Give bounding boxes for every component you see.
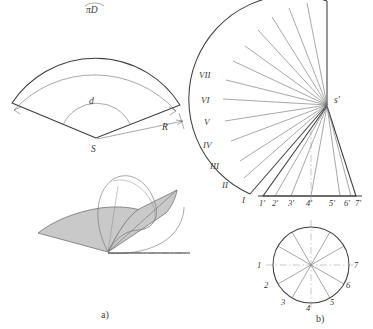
arrow-left-outer — [14, 107, 21, 114]
triangle-generatrix — [291, 106, 327, 196]
drawing-canvas: πD d S R a) — [0, 0, 373, 329]
sector-outline — [12, 58, 180, 138]
label-circle-2: 2 — [264, 280, 269, 290]
panel-a-sector-development: πD d S R — [12, 3, 184, 154]
label-circle-6: 6 — [346, 280, 351, 290]
fan-generatrix — [245, 46, 327, 105]
panel-b-caption: b) — [316, 313, 324, 325]
radius-tick — [179, 113, 184, 129]
fan-radius-bottom — [250, 105, 327, 194]
panel-b-front-view-triangle: 1' 2' 3' 4' 5' 6' 7' — [258, 106, 362, 208]
circle-radius — [292, 265, 311, 298]
label-circle-1: 1 — [257, 260, 261, 270]
label-apex-s-prime: s' — [334, 95, 341, 105]
panel-a-cone-unrolling: a) — [38, 176, 190, 321]
label-baseline-4p: 4' — [306, 198, 312, 208]
circle-radius — [292, 232, 311, 265]
label-circle-4: 4 — [306, 303, 311, 313]
label-apex-S: S — [91, 144, 96, 154]
label-baseline-7p: 7' — [355, 198, 361, 208]
panel-b-fan-development: VII VI V IV III II I s' — [189, 0, 341, 205]
fan-generatrix-group — [223, 3, 327, 178]
circle-radius — [311, 246, 344, 265]
circle-radius — [311, 265, 344, 284]
circle-radius — [278, 246, 311, 265]
circle-radius — [311, 232, 330, 265]
label-generatrix-VII: VII — [199, 70, 211, 80]
label-generatrix-III: III — [209, 161, 220, 171]
fan-generatrix — [223, 99, 327, 105]
label-baseline-1p: 1' — [259, 198, 265, 208]
label-generatrix-IV: IV — [202, 140, 213, 150]
label-angle-d: d — [89, 96, 94, 106]
triangle-generatrix — [327, 106, 340, 196]
panel-b-top-view-circle: 1 2 3 4 5 6 7 b) — [257, 220, 359, 325]
outer-arc-piD — [14, 75, 176, 111]
fan-generatrix — [289, 8, 327, 105]
label-baseline-5p: 5' — [329, 198, 335, 208]
label-circle-3: 3 — [280, 297, 285, 307]
label-generatrix-I: I — [241, 195, 246, 205]
triangle-generatrix — [327, 106, 351, 196]
fan-generatrix — [226, 80, 327, 105]
label-baseline-6p: 6' — [344, 198, 350, 208]
circle-radius — [278, 265, 311, 284]
label-baseline-2p: 2' — [272, 198, 278, 208]
panel-a-caption: a) — [101, 309, 109, 321]
fan-generatrix — [307, 3, 327, 105]
technical-drawing-figure: πD d S R a) — [0, 0, 373, 329]
label-generatrix-V: V — [204, 117, 211, 127]
label-arc-length-piD: πD — [86, 5, 98, 15]
angle-arc-d — [63, 103, 130, 125]
triangle-generatrix-group — [275, 106, 351, 196]
label-radius-R: R — [161, 122, 168, 132]
triangle-outline — [263, 106, 356, 196]
circle-radius — [311, 265, 330, 298]
label-circle-5: 5 — [330, 297, 334, 307]
label-generatrix-VI: VI — [201, 95, 210, 105]
radius-dimension-line — [97, 121, 183, 139]
label-generatrix-II: II — [221, 180, 229, 190]
fan-generatrix — [258, 30, 327, 105]
label-baseline-3p: 3' — [287, 198, 294, 208]
label-circle-7: 7 — [354, 260, 359, 270]
